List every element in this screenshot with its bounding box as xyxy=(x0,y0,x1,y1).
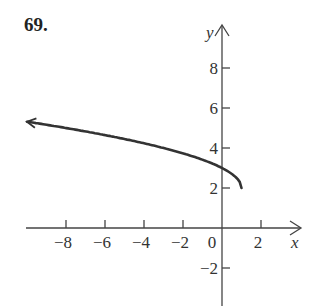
function-graph: −8−6−4−202 8642−2 x y xyxy=(0,0,320,306)
x-tick-label: 0 xyxy=(208,233,217,252)
x-tick-label: −4 xyxy=(132,233,151,252)
x-axis-label: x xyxy=(290,233,299,252)
x-ticks: −8−6−4−202 xyxy=(54,220,262,252)
y-tick-label: −2 xyxy=(200,259,218,278)
x-tick-label: −6 xyxy=(93,233,111,252)
axes xyxy=(26,25,301,306)
x-tick-label: −8 xyxy=(54,233,72,252)
y-tick-label: 6 xyxy=(210,99,219,118)
x-tick-label: 2 xyxy=(254,233,263,252)
y-axis-label: y xyxy=(204,23,214,42)
y-tick-label: 2 xyxy=(210,179,219,198)
y-tick-label: 8 xyxy=(210,59,219,78)
y-tick-label: 4 xyxy=(210,139,219,158)
x-tick-label: −2 xyxy=(171,233,189,252)
